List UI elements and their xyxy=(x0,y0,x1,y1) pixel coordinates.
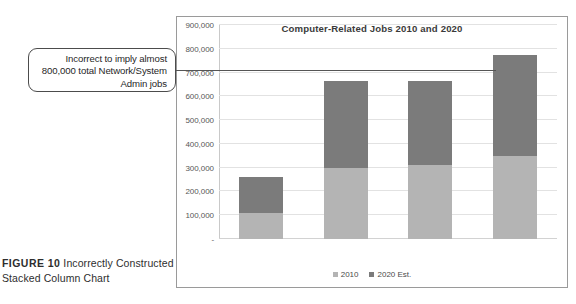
legend-label: 2010 xyxy=(341,270,359,279)
bar-group: CIS Managers xyxy=(408,81,452,239)
y-axis-line xyxy=(219,25,220,239)
y-axis-tick-label: 600,000 xyxy=(185,92,214,101)
callout-annotation-box: Incorrect to imply almost 800,000 total … xyxy=(28,48,176,92)
y-axis-tick-label: 200,000 xyxy=(185,187,214,196)
legend-item: 2020 Est. xyxy=(369,270,411,279)
y-axis-tick-label: 300,000 xyxy=(185,163,214,172)
bar-segment-2010 xyxy=(493,156,537,239)
bar-segment-2010 xyxy=(239,213,283,239)
bar-group: Database Administrators xyxy=(239,177,283,239)
bar-segment-2020-est xyxy=(408,81,452,165)
gridline: 800,000 xyxy=(219,48,557,49)
chart-legend: 20102020 Est. xyxy=(177,270,567,279)
gridline: 900,000 xyxy=(219,24,557,25)
legend-swatch xyxy=(333,272,338,277)
callout-connector-line xyxy=(172,70,496,71)
plot-area: 900,000800,000700,000600,000500,000400,0… xyxy=(219,25,557,239)
legend-item: 2010 xyxy=(333,270,359,279)
y-axis-tick-label: 800,000 xyxy=(185,44,214,53)
legend-swatch xyxy=(369,272,374,277)
chart-frame: Computer-Related Jobs 2010 and 2020 900,… xyxy=(176,16,568,288)
bar-group: Info Security Analysts xyxy=(324,81,368,239)
bar-segment-2020-est xyxy=(239,177,283,213)
legend-label: 2020 Est. xyxy=(377,270,411,279)
bar-group: Network/System Admins xyxy=(493,55,537,239)
figure-label: FIGURE 10 xyxy=(2,257,60,269)
y-axis-tick-label: 500,000 xyxy=(185,116,214,125)
y-axis-tick-label: 900,000 xyxy=(185,21,214,30)
y-axis-tick-label: 400,000 xyxy=(185,139,214,148)
callout-annotation-text: Incorrect to imply almost 800,000 total … xyxy=(35,53,167,90)
bar-segment-2010 xyxy=(408,165,452,239)
figure-caption: FIGURE 10 Incorrectly Constructed Stacke… xyxy=(2,256,174,285)
bar-segment-2020-est xyxy=(493,55,537,156)
y-axis-tick-label: 100,000 xyxy=(185,211,214,220)
y-axis-tick-label: - xyxy=(211,235,214,244)
bar-segment-2020-est xyxy=(324,81,368,168)
bar-segment-2010 xyxy=(324,168,368,239)
